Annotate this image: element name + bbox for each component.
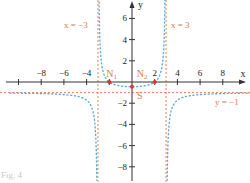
y-axis-arrow-icon <box>130 1 135 8</box>
asymptotes <box>0 0 250 183</box>
point-s-label: S <box>137 90 143 101</box>
x-tick-label: 6 <box>198 68 203 78</box>
x-axis-label: x <box>241 68 246 79</box>
x-tick-label: −8 <box>36 68 46 78</box>
point-s-marker <box>130 85 134 89</box>
y-tick-label: 6 <box>123 13 128 23</box>
curve-left-branch <box>9 93 96 181</box>
y-axis-label: y <box>138 0 143 10</box>
y-tick-label: 4 <box>123 35 128 45</box>
function-graph: −8−6−42468642−2−4−6−8xy x = −3x = 3y = −… <box>0 0 250 183</box>
point-n2-marker <box>153 80 157 84</box>
y-tick-label: −2 <box>117 98 127 108</box>
x-tick-label: −4 <box>82 68 92 78</box>
figure-caption: Fig. 4 <box>1 170 22 180</box>
y-tick-label: −8 <box>117 162 127 172</box>
point-n1-label: N1 <box>106 68 117 81</box>
asymptote-label: x = −3 <box>64 20 88 30</box>
y-tick-label: 2 <box>123 56 128 66</box>
asymptote-label: y = −1 <box>215 97 239 107</box>
asymptote-label: x = 3 <box>171 20 190 30</box>
axes <box>6 1 246 181</box>
point-n2-label: N2 <box>137 68 148 81</box>
x-tick-label: 4 <box>175 68 180 78</box>
x-tick-label: 8 <box>221 68 226 78</box>
y-tick-label: −6 <box>117 141 127 151</box>
curve-branches <box>9 0 250 181</box>
x-tick-label: −6 <box>59 68 69 78</box>
point-n1-marker <box>107 80 111 84</box>
y-tick-label: −4 <box>117 119 127 129</box>
x-axis-arrow-icon <box>239 80 246 85</box>
x-tick-label: 2 <box>152 68 157 78</box>
